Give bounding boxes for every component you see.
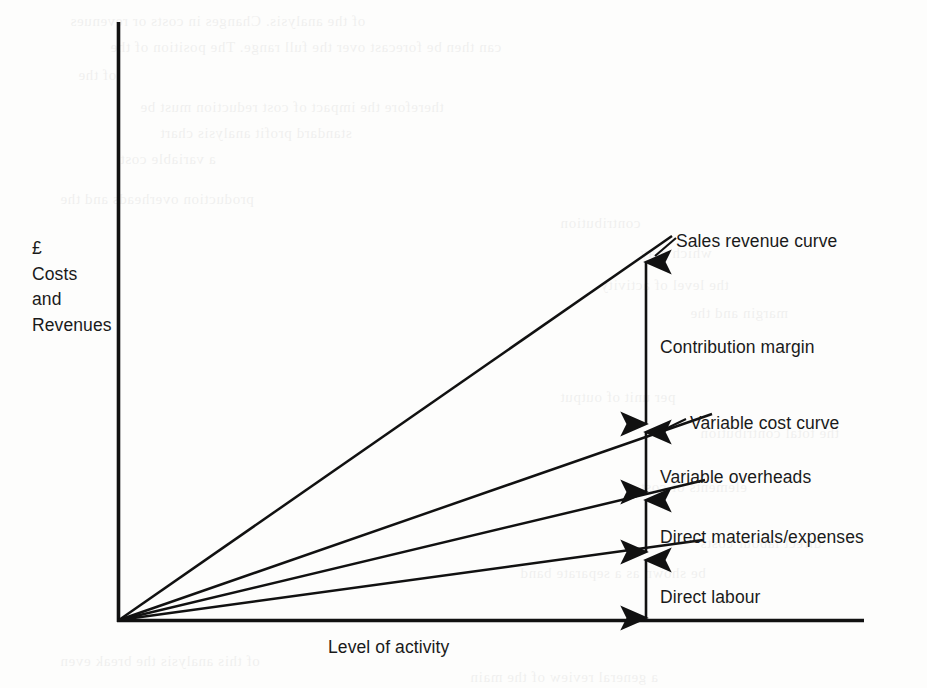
label-direct-labour: Direct labour <box>660 586 761 609</box>
y-axis-label: £ Costs and Revenues <box>32 236 112 338</box>
label-direct-materials-expenses: Direct materials/expenses <box>660 526 864 549</box>
label-contribution-margin: Contribution margin <box>660 336 815 359</box>
sales-revenue-curve-line <box>119 236 672 620</box>
variable-cost-curve-line <box>119 414 712 620</box>
cost-revenue-rays <box>119 236 712 620</box>
cost-volume-profit-diagram: of the analysis. Changes in costs or rev… <box>0 0 927 688</box>
variable-overheads-curve-line <box>119 480 705 620</box>
label-variable-cost-curve: Variable cost curve <box>690 412 839 435</box>
variable-cost-leader-line <box>655 419 686 434</box>
label-variable-overheads: Variable overheads <box>660 466 811 489</box>
label-sales-revenue-curve: Sales revenue curve <box>676 230 837 253</box>
direct-materials-curve-line <box>119 540 703 620</box>
x-axis-label: Level of activity <box>328 636 449 659</box>
